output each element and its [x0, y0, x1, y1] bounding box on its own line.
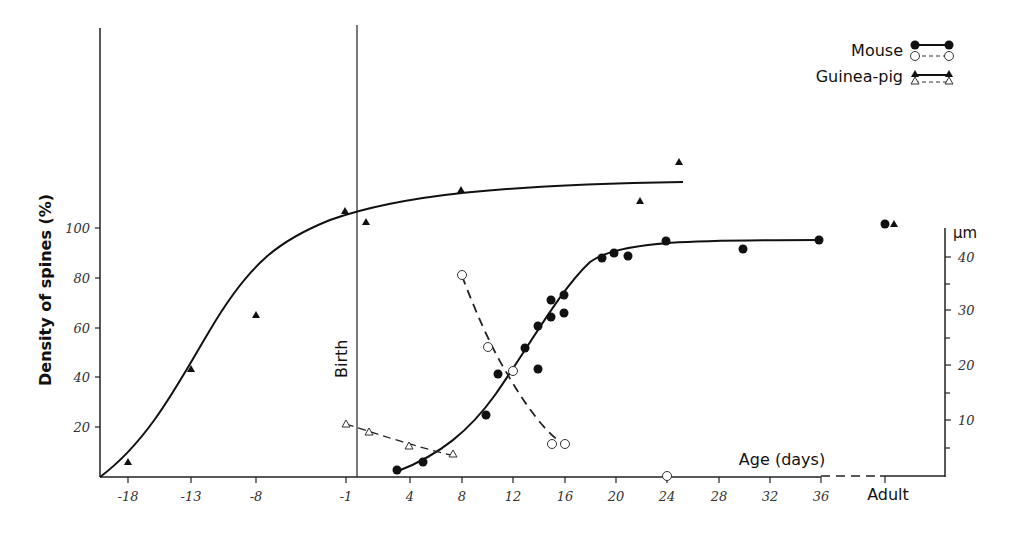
- guinea-pig-density-points: [124, 158, 898, 465]
- y2-tick-label: 40: [957, 250, 975, 265]
- y2-tick-label: 20: [957, 358, 975, 373]
- x-tick-label: 32: [762, 489, 779, 504]
- legend-label-guinea-pig: Guinea-pig: [816, 67, 903, 86]
- x-tick-label: -1: [340, 489, 353, 504]
- x-tick-label: 4: [405, 489, 414, 504]
- x-tick-label: 12: [505, 489, 522, 504]
- legend-mouse-filled-circle-icon: [911, 41, 920, 50]
- legend-guinea-pig-open-triangle-icon: [945, 77, 953, 84]
- y2-tick-label: 30: [958, 303, 975, 318]
- legend-guinea-pig-open-triangle-icon: [911, 77, 919, 84]
- legend-mouse-open-circle-icon: [945, 52, 954, 61]
- x-tick-label: 16: [557, 489, 574, 504]
- x-tick-label: 24: [658, 489, 676, 504]
- x-tick-label: 28: [710, 489, 728, 504]
- x-tick-label-adult: Adult: [867, 485, 909, 504]
- y-ticks-right: [945, 257, 951, 448]
- y2-tick-label: 10: [958, 413, 975, 428]
- x-tick-label: 20: [607, 489, 625, 504]
- legend-mouse-filled-circle-icon: [945, 41, 954, 50]
- y-axis-title: Density of spines (%): [36, 194, 55, 386]
- x-tick-label: -18: [118, 489, 139, 504]
- legend: Mouse Guinea-pig: [816, 41, 954, 87]
- legend-guinea-pig-filled-triangle-icon: [945, 70, 953, 77]
- birth-label: Birth: [332, 340, 351, 378]
- y2-unit-label: μm: [953, 224, 977, 242]
- y-tick-label: 40: [72, 370, 90, 385]
- x-tick-label: 36: [813, 489, 830, 504]
- y-tick-label: 80: [73, 271, 90, 286]
- mouse-um-points: [458, 271, 672, 481]
- legend-label-mouse: Mouse: [851, 41, 903, 60]
- mouse-density-points: [393, 220, 890, 475]
- y-tick-label: 20: [72, 420, 90, 435]
- legend-guinea-pig-filled-triangle-icon: [911, 70, 919, 77]
- spine-density-chart: Birth 20 40 60 80 100 Density of spines …: [0, 0, 1012, 535]
- y-tick-label: 100: [65, 221, 90, 236]
- x-tick-label: -13: [181, 489, 202, 504]
- x-tick-label: 8: [458, 489, 466, 504]
- guinea-pig-density-curve: [100, 182, 683, 477]
- x-axis-title: Age (days): [739, 450, 825, 469]
- legend-mouse-open-circle-icon: [911, 52, 920, 61]
- y-tick-label: 60: [73, 321, 90, 336]
- guinea-pig-um-points: [342, 420, 457, 457]
- x-tick-label: -8: [250, 489, 263, 504]
